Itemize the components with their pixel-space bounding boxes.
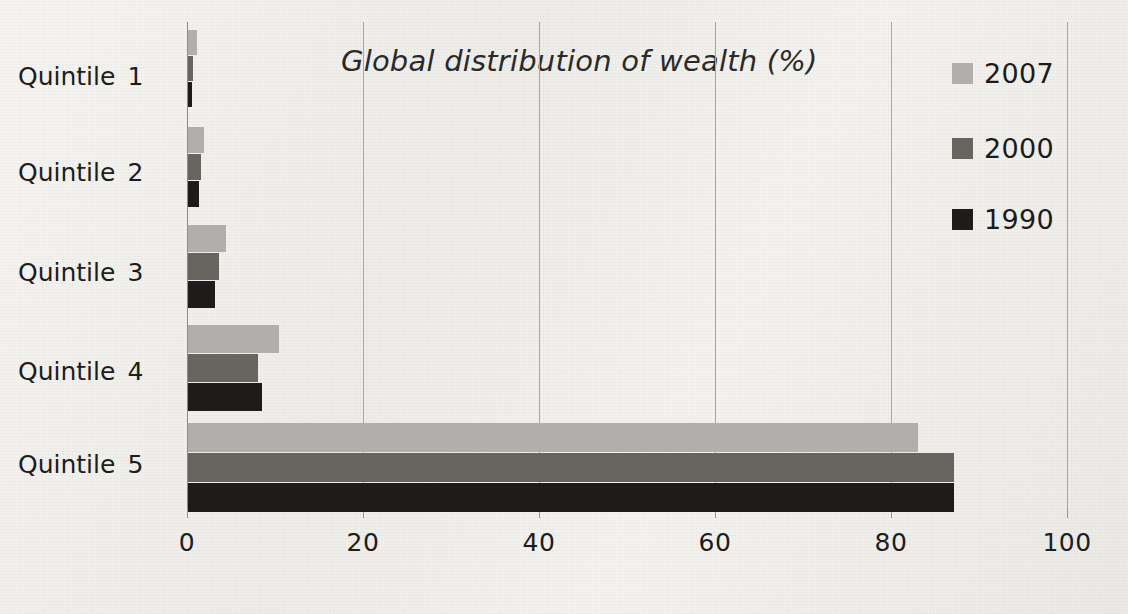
y-label-number: 4 [127,357,143,386]
y-label-word: Quintile [18,450,115,479]
bar-1990-quintile-5[interactable] [188,483,954,512]
legend-label-1990: 1990 [984,204,1054,235]
gridline-100 [1067,22,1068,508]
bar-2000-quintile-1[interactable] [188,56,193,81]
bar-2000-quintile-2[interactable] [188,154,201,180]
legend-swatch-1990 [952,209,973,230]
chart-title: Global distribution of wealth (%) [341,44,818,78]
bar-2007-quintile-4[interactable] [188,325,279,353]
y-label-number: 1 [127,62,143,91]
bar-2000-quintile-3[interactable] [188,253,219,280]
y-label-number: 5 [127,450,143,479]
legend-swatch-2007 [952,63,973,84]
y-label-word: Quintile [18,158,115,187]
y-axis-label-quintile-2: Quintile2 [18,158,178,187]
x-tick-label-40: 40 [499,528,579,557]
bar-2007-quintile-3[interactable] [188,225,226,252]
y-axis-label-quintile-4: Quintile4 [18,357,178,386]
x-tick-100 [1067,508,1068,518]
y-label-word: Quintile [18,258,115,287]
legend-swatch-2000 [952,138,973,159]
bar-1990-quintile-2[interactable] [188,181,199,207]
chart-page: Global distribution of wealth (%) 2007 2… [0,0,1128,614]
bar-1990-quintile-4[interactable] [188,383,262,411]
legend-item-2000[interactable]: 2000 [952,133,1054,164]
y-label-number: 3 [127,258,143,287]
y-label-word: Quintile [18,357,115,386]
y-axis-label-quintile-3: Quintile3 [18,258,178,287]
bar-2007-quintile-1[interactable] [188,30,197,55]
bar-2000-quintile-5[interactable] [188,453,954,482]
x-tick-label-100: 100 [1027,528,1107,557]
bar-2007-quintile-2[interactable] [188,127,204,153]
x-tick-label-60: 60 [675,528,755,557]
y-label-number: 2 [127,158,143,187]
legend-item-1990[interactable]: 1990 [952,204,1054,235]
legend-item-2007[interactable]: 2007 [952,58,1054,89]
bar-1990-quintile-1[interactable] [188,82,192,107]
legend-label-2000: 2000 [984,133,1054,164]
bar-2000-quintile-4[interactable] [188,354,258,382]
y-axis-label-quintile-5: Quintile5 [18,450,178,479]
x-tick-label-20: 20 [323,528,403,557]
y-label-word: Quintile [18,62,115,91]
x-tick-label-0: 0 [147,528,227,557]
paper-texture-background [0,0,1128,614]
y-axis-label-quintile-1: Quintile1 [18,62,178,91]
legend-label-2007: 2007 [984,58,1054,89]
bar-2007-quintile-5[interactable] [188,423,918,452]
x-tick-label-80: 80 [851,528,931,557]
bar-1990-quintile-3[interactable] [188,281,215,308]
